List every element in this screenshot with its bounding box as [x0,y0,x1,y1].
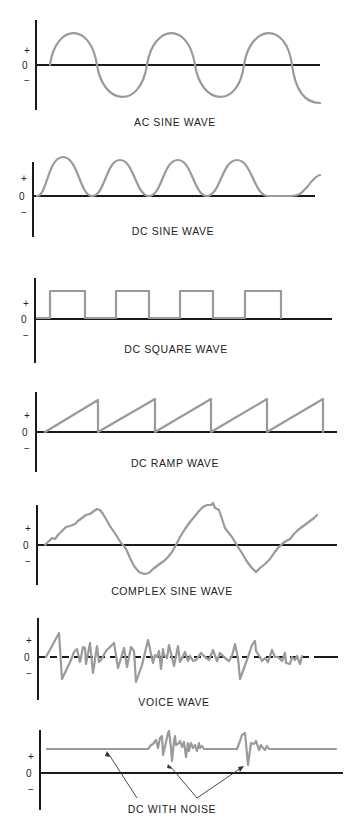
dc-noise-wave [47,731,336,765]
caption-dc-sine: DC SINE WAVE [132,225,214,237]
plus-label: + [24,45,30,56]
zero-label: 0 [22,60,28,71]
panel-voice: + 0 − VOICE WAVE [24,618,338,708]
minus-label: − [23,330,29,341]
minus-label: − [25,556,31,567]
plus-label: + [24,410,30,421]
zero-label: 0 [26,768,32,779]
plus-label: + [23,298,29,309]
plus-label: + [25,523,31,534]
zero-label: 0 [22,427,28,438]
caption-dc-ramp: DC RAMP WAVE [131,457,219,469]
zero-label: 0 [23,540,29,551]
dc-square-wave [37,291,281,318]
dc-sine-wave [37,157,320,196]
minus-label: − [24,75,30,86]
complex-sine-wave [45,503,317,574]
panel-dc-sine: + 0 − DC SINE WAVE [19,157,320,237]
zero-label: 0 [24,652,30,663]
caption-complex-sine: COMPLEX SINE WAVE [111,585,233,597]
plus-label: + [26,635,32,646]
minus-label: − [28,784,34,795]
arrow-to-dc-level [108,753,137,798]
minus-label: − [26,668,32,679]
minus-label: − [24,443,30,454]
caption-voice: VOICE WAVE [138,696,209,708]
callout-arrows [105,751,244,798]
arrowhead-icon [105,751,110,757]
plus-label: + [21,173,27,184]
zero-label: 0 [21,314,27,325]
arrowhead-icon [167,764,172,769]
caption-dc-square: DC SQUARE WAVE [124,343,228,355]
panel-dc-square: + 0 − DC SQUARE WAVE [21,278,332,363]
minus-label: − [21,207,27,218]
ac-sine-wave [50,33,320,103]
caption-ac-sine: AC SINE WAVE [134,116,216,128]
panel-dc-ramp: + 0 − DC RAMP WAVE [22,392,337,472]
arrowhead-icon [238,766,244,772]
dc-ramp-wave [45,399,323,432]
plus-label: + [28,751,34,762]
waveform-figure: + 0 − AC SINE WAVE + 0 − DC SINE WAVE + … [0,0,357,820]
zero-label: 0 [19,191,25,202]
panel-complex-sine: + 0 − COMPLEX SINE WAVE [23,503,337,597]
caption-dc-noise: DC WITH NOISE [128,803,216,815]
panel-dc-noise: + 0 − DC WITH NOISE [26,730,343,815]
panel-ac-sine: + 0 − AC SINE WAVE [22,20,320,128]
arrow-to-noise-burst-1 [170,766,197,798]
